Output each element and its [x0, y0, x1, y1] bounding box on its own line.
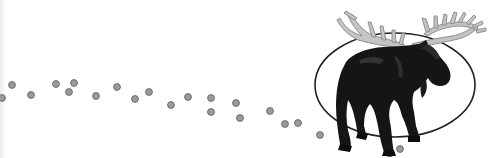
- hoofprint-dot: [237, 115, 244, 122]
- hoofprint-dot: [267, 108, 274, 115]
- hoofprint-dot: [317, 132, 324, 139]
- hoofprint-dot: [233, 100, 240, 107]
- hoofprint-dot: [114, 84, 121, 91]
- hoofprint-dot: [185, 94, 192, 101]
- hoofprint-dot: [397, 146, 404, 153]
- hoofprint-dot: [71, 80, 78, 87]
- hoofprint-dot: [93, 93, 100, 100]
- moose-trail-illustration: [0, 0, 502, 158]
- hoofprint-dot: [132, 96, 139, 103]
- moose-icon: [336, 40, 451, 157]
- illustration-canvas: [0, 0, 502, 158]
- hoofprint-dot: [295, 120, 302, 127]
- hoofprint-dot: [208, 95, 215, 102]
- hoofprint-dot: [53, 81, 60, 88]
- hoofprint-dot: [146, 89, 153, 96]
- hoofprint-dot: [168, 102, 175, 109]
- hoofprint-dot: [0, 95, 5, 102]
- hoofprint-dot: [28, 92, 35, 99]
- hoofprint-dot: [282, 121, 289, 128]
- hoofprint-dot: [66, 89, 73, 96]
- moose-antlers-icon: [337, 11, 486, 48]
- hoofprint-dot: [208, 109, 215, 116]
- hoofprint-dot: [9, 82, 16, 89]
